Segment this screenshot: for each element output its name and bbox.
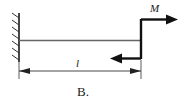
figure-caption: B. bbox=[77, 85, 89, 98]
moment-label: M bbox=[150, 3, 159, 14]
beam-diagram-figure: M l B. bbox=[0, 0, 183, 107]
length-label: l bbox=[76, 58, 79, 69]
dimension-arrow-left bbox=[19, 68, 30, 74]
couple-bottom-arrow-head bbox=[110, 54, 122, 64]
wall-hatching bbox=[12, 13, 19, 60]
diagram-canvas bbox=[0, 0, 183, 107]
applied-moment-couple bbox=[110, 15, 178, 64]
length-dimension-line bbox=[19, 60, 141, 79]
fixed-wall-support bbox=[12, 13, 19, 62]
couple-top-arrow-head bbox=[166, 15, 178, 25]
dimension-arrow-right bbox=[130, 68, 141, 74]
